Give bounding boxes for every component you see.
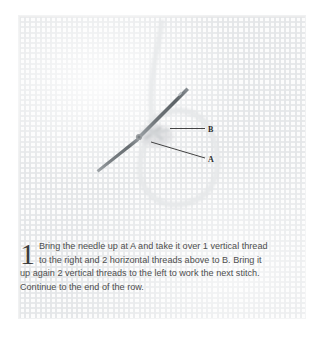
page-root: B A 1 Bring the needle up at A and take …	[0, 0, 321, 338]
caption-line-4: Continue to the end of the row.	[20, 281, 296, 295]
caption-line-3: up again 2 vertical threads to the left …	[20, 267, 296, 281]
panel-top-edge	[19, 16, 305, 17]
instruction-caption: 1 Bring the needle up at A and take it o…	[20, 240, 296, 294]
instruction-text: Bring the needle up at A and take it ove…	[20, 240, 296, 294]
caption-line-1: Bring the needle up at A and take it ove…	[20, 240, 296, 254]
caption-line-2: to the right and 2 horizontal threads ab…	[20, 254, 296, 268]
step-number: 1	[20, 239, 35, 269]
